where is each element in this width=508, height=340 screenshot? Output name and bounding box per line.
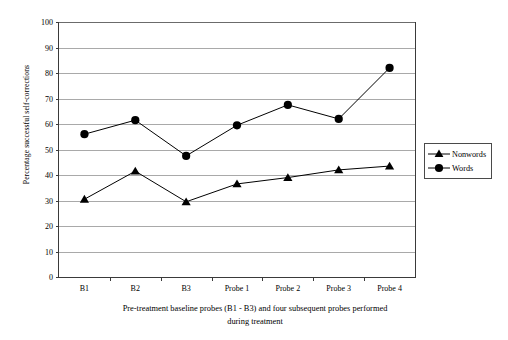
data-point-words-4: [284, 101, 292, 109]
data-point-nonwords-0: [80, 195, 89, 203]
data-point-words-2: [182, 152, 190, 160]
x-axis-title-line-1: Pre-treatment baseline probes (B1 - B3) …: [40, 303, 470, 316]
x-tick-label-probe-4: Probe 4: [377, 284, 402, 293]
y-tick-label-30: 30: [45, 196, 53, 205]
series-words: [80, 64, 393, 160]
legend-item-nonwords[interactable]: Nonwords: [428, 147, 486, 161]
y-tick-label-20: 20: [45, 222, 53, 231]
y-tick-label-80: 80: [45, 69, 53, 78]
chart-legend: Nonwords Words: [424, 143, 492, 179]
series-nonwords: [80, 162, 394, 206]
gridline-0: [59, 277, 415, 278]
data-point-nonwords-1: [131, 167, 140, 175]
y-tick-label-100: 100: [41, 18, 53, 27]
x-tick-mark-1: [110, 277, 111, 281]
y-tick-mark-0: [56, 277, 59, 278]
data-point-words-5: [335, 115, 343, 123]
data-point-words-6: [385, 64, 393, 72]
series-line-words: [84, 68, 389, 156]
plot-area: 0102030405060708090100 B1B2B3Probe 1Prob…: [58, 22, 416, 278]
data-point-nonwords-2: [182, 197, 191, 205]
x-tick-label-probe-2: Probe 2: [276, 284, 301, 293]
x-tick-label-probe-1: Probe 1: [225, 284, 250, 293]
y-tick-label-0: 0: [49, 273, 53, 282]
legend-label-nonwords: Nonwords: [452, 150, 486, 159]
x-tick-label-probe-3: Probe 3: [326, 284, 351, 293]
data-point-words-3: [233, 121, 241, 129]
x-tick-mark-2: [161, 277, 162, 281]
circle-marker-icon: [428, 162, 450, 174]
series-group: [59, 22, 415, 277]
y-tick-label-50: 50: [45, 145, 53, 154]
x-tick-label-b1: B1: [80, 284, 89, 293]
legend-label-words: Words: [452, 164, 473, 173]
data-point-nonwords-6: [385, 162, 394, 170]
y-tick-label-10: 10: [45, 247, 53, 256]
data-point-words-1: [131, 116, 139, 124]
x-tick-mark-3: [212, 277, 213, 281]
x-tick-mark-4: [262, 277, 263, 281]
triangle-marker-icon: [428, 148, 450, 160]
data-point-words-0: [80, 130, 88, 138]
x-tick-label-b3: B3: [181, 284, 190, 293]
x-tick-mark-6: [364, 277, 365, 281]
y-tick-label-70: 70: [45, 94, 53, 103]
y-tick-label-90: 90: [45, 43, 53, 52]
x-axis-title-line-2: during treatment: [40, 316, 470, 329]
chart-figure: Percentage successful self-corrections 0…: [0, 0, 508, 340]
x-tick-label-b2: B2: [131, 284, 140, 293]
legend-item-words[interactable]: Words: [428, 161, 486, 175]
y-tick-label-40: 40: [45, 171, 53, 180]
x-tick-mark-5: [313, 277, 314, 281]
y-tick-label-60: 60: [45, 120, 53, 129]
x-axis-title: Pre-treatment baseline probes (B1 - B3) …: [40, 303, 470, 328]
y-axis-title: Percentage successful self-corrections: [22, 25, 31, 225]
